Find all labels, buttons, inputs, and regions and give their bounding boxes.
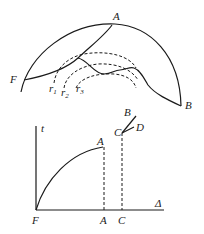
label-t: t	[41, 122, 45, 134]
label-D-point: D	[135, 121, 144, 133]
wavy-curve-to-B	[78, 58, 181, 106]
label-r1: r1	[49, 82, 57, 96]
label-B-top: B	[185, 99, 192, 111]
label-F-top: F	[9, 73, 17, 85]
curve-F-A	[36, 147, 103, 210]
label-delta: Δ	[154, 197, 161, 209]
x-tick-C: C	[118, 214, 126, 226]
label-A-point: A	[96, 135, 104, 147]
bottom-figure: t Δ F A C A C B D	[31, 106, 164, 226]
label-A-top: A	[112, 10, 120, 22]
label-F-origin: F	[31, 214, 39, 226]
dashed-arc-r3	[76, 74, 136, 88]
label-r3: r3	[76, 82, 84, 96]
label-B-point: B	[124, 106, 131, 118]
line-C-B	[122, 116, 136, 133]
inner-curve-F-A	[24, 25, 112, 80]
x-tick-A: A	[99, 214, 107, 226]
label-C-point: C	[114, 126, 122, 138]
label-r2: r2	[61, 86, 69, 100]
diagram-canvas: A F B r1 r2 r3 t Δ F A C A C B D	[0, 0, 204, 234]
top-figure: A F B r1 r2 r3	[9, 10, 192, 111]
